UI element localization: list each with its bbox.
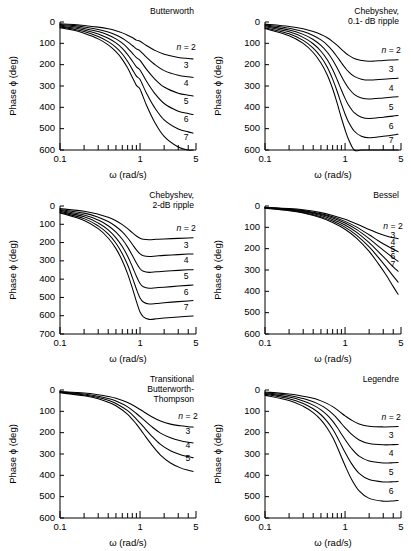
y-tick-label: 200 xyxy=(244,58,260,69)
plot-panel-legendre: 01002003004005006000.115ω (rad/s)Phase ϕ… xyxy=(205,368,410,551)
curve-labels: n = 234567 xyxy=(383,221,403,269)
x-axis-label: ω (rad/s) xyxy=(109,537,147,548)
panel-title: Legendre xyxy=(363,374,400,384)
x-tick-label: 1 xyxy=(342,337,347,348)
x-axis-label: ω (rad/s) xyxy=(314,537,352,548)
y-tick-label: 200 xyxy=(244,426,260,437)
plot-panel-chebyshev: 01002003004005006000.115ω (rad/s)Phase ϕ… xyxy=(205,0,410,184)
curves xyxy=(265,24,398,151)
curves xyxy=(265,392,398,501)
panel-title: Bessel xyxy=(373,190,399,200)
panel-title-line: Butterworth xyxy=(150,6,194,16)
curve-label-n7: 7 xyxy=(184,132,189,142)
y-tick-label: 0 xyxy=(50,16,55,27)
x-tick-label: 5 xyxy=(398,337,403,348)
plot-panel-transitional: 01002003004005006000.115ω (rad/s)Phase ϕ… xyxy=(0,368,205,551)
curve-label-n4: 4 xyxy=(389,448,394,458)
phase-curve-n6 xyxy=(265,395,398,501)
x-tick-label: 1 xyxy=(137,337,142,348)
y-tick-label: 500 xyxy=(39,291,55,302)
curve-label-n3: 3 xyxy=(186,426,191,436)
phase-curve-n5 xyxy=(265,394,398,482)
curve-label-n3: 3 xyxy=(389,430,394,440)
x-tick-label: 1 xyxy=(137,521,142,532)
x-tick-labels: 0.115 xyxy=(258,521,403,532)
phase-curve-n6 xyxy=(265,28,398,138)
x-tick-labels: 0.115 xyxy=(53,337,198,348)
x-tick-label: 5 xyxy=(193,521,198,532)
x-axis-label: ω (rad/s) xyxy=(109,169,147,180)
y-tick-label: 400 xyxy=(244,469,260,480)
y-tick-label: 400 xyxy=(244,101,260,112)
y-tick-label: 600 xyxy=(39,309,55,320)
x-tick-label: 5 xyxy=(398,521,403,532)
x-tick-label: 0.1 xyxy=(258,521,271,532)
curve-label-n2: n = 2 xyxy=(382,45,402,55)
y-tick-label: 500 xyxy=(244,306,260,317)
plot-panel-chebyshev: 01002003004005006007000.115ω (rad/s)Phas… xyxy=(0,184,205,368)
x-tick-labels: 0.115 xyxy=(258,153,403,164)
x-tick-label: 0.1 xyxy=(258,337,271,348)
panel-title-line: Legendre xyxy=(363,374,400,384)
x-axis-label: ω (rad/s) xyxy=(314,353,352,364)
x-tick-label: 5 xyxy=(193,337,198,348)
y-tick-label: 300 xyxy=(39,448,55,459)
y-tick-label: 400 xyxy=(39,101,55,112)
curve-label-n2: n = 2 xyxy=(177,223,197,233)
panel-title-line: Butterworth- xyxy=(147,384,194,394)
panel-title-line: Transitional xyxy=(150,374,194,384)
panel-title-line: 0.1- dB ripple xyxy=(348,16,399,26)
curves xyxy=(265,207,398,294)
y-axis-label: Phase ϕ (deg) xyxy=(7,240,18,300)
panel-title-line: Thompson xyxy=(153,394,194,404)
phase-curve-n3 xyxy=(60,25,193,78)
x-tick-labels: 0.115 xyxy=(53,153,198,164)
y-tick-label: 100 xyxy=(244,405,260,416)
phase-curve-n5 xyxy=(60,211,193,288)
y-tick-label: 0 xyxy=(255,16,260,27)
x-axis-ticks xyxy=(60,327,196,334)
y-tick-label: 300 xyxy=(39,254,55,265)
phase-curve-n3 xyxy=(265,25,398,80)
phase-curve-n3 xyxy=(60,209,193,256)
y-tick-label: 200 xyxy=(39,236,55,247)
phase-curve-n5 xyxy=(60,393,193,472)
x-tick-label: 0.1 xyxy=(53,337,66,348)
y-tick-label: 0 xyxy=(50,200,55,211)
x-tick-label: 1 xyxy=(137,153,142,164)
curve-label-n5: 5 xyxy=(184,271,189,281)
axes xyxy=(265,390,401,518)
y-tick-label: 0 xyxy=(255,384,260,395)
axes xyxy=(60,22,196,150)
x-tick-label: 1 xyxy=(342,153,347,164)
x-axis-ticks xyxy=(265,511,401,518)
x-axis-label: ω (rad/s) xyxy=(314,169,352,180)
y-tick-label: 100 xyxy=(244,37,260,48)
phase-curve-n3 xyxy=(265,393,398,445)
filter-phase-response-figure: 01002003004005006000.115ω (rad/s)Phase ϕ… xyxy=(0,0,411,551)
curve-label-n5: 5 xyxy=(389,467,394,477)
panel-title: Butterworth xyxy=(150,6,194,16)
x-tick-labels: 0.115 xyxy=(53,521,198,532)
y-axis-label: Phase ϕ (deg) xyxy=(7,424,18,484)
curve-label-n6: 6 xyxy=(389,121,394,131)
phase-curve-n4 xyxy=(265,26,398,99)
phase-curve-n6 xyxy=(60,212,193,304)
y-tick-label: 100 xyxy=(39,37,55,48)
curve-label-n4: 4 xyxy=(186,440,191,450)
axes xyxy=(60,390,196,518)
x-tick-label: 0.1 xyxy=(53,521,66,532)
x-axis-ticks xyxy=(265,327,401,334)
x-tick-label: 1 xyxy=(342,521,347,532)
curve-label-n2: n = 2 xyxy=(178,411,198,421)
curve-label-n7: 7 xyxy=(391,259,396,269)
phase-curve-n4 xyxy=(265,208,398,262)
y-tick-label: 400 xyxy=(39,469,55,480)
curves xyxy=(60,209,193,320)
phase-curve-n7 xyxy=(60,213,193,320)
curve-label-n7: 7 xyxy=(184,302,189,312)
x-tick-label: 0.1 xyxy=(53,153,66,164)
curve-label-n3: 3 xyxy=(389,64,394,74)
y-tick-label: 100 xyxy=(39,405,55,416)
curve-label-n5: 5 xyxy=(389,102,394,112)
